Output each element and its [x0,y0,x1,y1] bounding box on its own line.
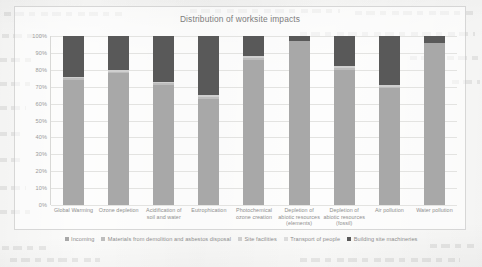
chart-legend: IncomingMaterials from demolition and as… [0,236,482,242]
bar-slot [186,36,231,205]
bar-segment[interactable] [379,87,400,89]
bar-segment[interactable] [289,36,310,41]
bar-segment[interactable] [153,85,174,205]
bar-segment[interactable] [63,80,84,205]
bar-segment[interactable] [334,70,355,205]
legend-swatch-icon [101,237,105,241]
x-axis-category-label: Photochemical ozone creation [231,207,276,229]
bar-segment[interactable] [108,70,129,72]
bar-segment[interactable] [334,66,355,68]
legend-item[interactable]: Building site machineries [347,236,417,242]
bar-slot [231,36,276,205]
bar-slot [51,36,96,205]
bar-segment[interactable] [108,73,129,205]
bar-segment[interactable] [198,97,219,99]
legend-swatch-icon [65,237,69,241]
bar-segment[interactable] [243,36,264,56]
legend-swatch-icon [238,237,242,241]
y-axis-tick-label: 70% [36,84,48,90]
x-axis-labels: Global WarmingOzone depletionAcidificati… [51,207,457,229]
legend-item[interactable]: Transport of people [284,236,340,242]
bar-slot [141,36,186,205]
bar-slot [277,36,322,205]
y-axis-tick-label: 90% [36,50,48,56]
stacked-bar[interactable] [289,36,310,205]
y-axis-tick-label: 80% [36,67,48,73]
stacked-bar[interactable] [243,36,264,205]
stacked-bar[interactable] [63,36,84,205]
x-axis-category-label: Global Warming [51,207,96,229]
bar-segment[interactable] [153,36,174,82]
bar-segment[interactable] [153,82,174,84]
bar-segment[interactable] [243,58,264,60]
y-axis-tick-label: 50% [36,118,48,124]
gridline [51,205,457,206]
stacked-bar[interactable] [334,36,355,205]
y-axis-tick-label: 100% [32,33,47,39]
legend-swatch-icon [284,237,288,241]
x-axis-category-label: Acidification of soil and water [141,207,186,229]
bar-slot [412,36,457,205]
x-axis-category-label: Ozone depletion [96,207,141,229]
bar-segment[interactable] [108,72,129,74]
y-axis-tick-label: 10% [36,185,48,191]
bar-segment[interactable] [108,36,129,70]
bar-segment[interactable] [243,56,264,58]
bar-segment[interactable] [63,36,84,77]
legend-label: Incoming [71,236,94,242]
bars-layer [51,36,457,205]
bar-segment[interactable] [379,85,400,87]
bar-segment[interactable] [198,99,219,205]
y-axis-tick-label: 60% [36,101,48,107]
bar-segment[interactable] [379,88,400,205]
x-axis-category-label: Water pollution [412,207,457,229]
stacked-bar[interactable] [198,36,219,205]
x-axis-category-label: Depletion of abiotic resources (fossil) [322,207,367,229]
bar-slot [367,36,412,205]
chart-container: Distribution of worksite impacts 100%90%… [14,6,466,230]
y-axis-tick-label: 30% [36,151,48,157]
y-axis-tick-label: 20% [36,168,48,174]
legend-item[interactable]: Incoming [65,236,95,242]
bar-segment[interactable] [379,36,400,85]
legend-label: Transport of people [290,236,340,242]
legend-label: Building site machineries [354,236,418,242]
x-axis-category-label: Air pollution [367,207,412,229]
legend-item[interactable]: Site facilities [238,236,277,242]
bar-segment[interactable] [198,95,219,97]
legend-label: Materials from demolition and asbestos d… [108,236,231,242]
bar-segment[interactable] [424,43,445,205]
plot-area: 100%90%80%70%60%50%40%30%20%10%0% [51,36,457,205]
legend-item[interactable]: Materials from demolition and asbestos d… [101,236,231,242]
x-axis-category-label: Eutrophication [186,207,231,229]
bar-segment[interactable] [424,36,445,43]
bar-segment[interactable] [289,41,310,205]
y-axis-tick-label: 0% [39,202,47,208]
bar-slot [322,36,367,205]
y-axis-tick-label: 40% [36,134,48,140]
stacked-bar[interactable] [379,36,400,205]
bar-segment[interactable] [63,77,84,79]
chart-page: Distribution of worksite impacts 100%90%… [0,0,482,267]
stacked-bar[interactable] [153,36,174,205]
legend-swatch-icon [347,237,351,241]
legend-label: Site facilities [245,236,277,242]
bar-slot [96,36,141,205]
stacked-bar[interactable] [424,36,445,205]
bar-segment[interactable] [153,83,174,85]
stacked-bar[interactable] [108,36,129,205]
bar-segment[interactable] [198,36,219,95]
bar-segment[interactable] [334,36,355,66]
bar-segment[interactable] [243,60,264,205]
bar-segment[interactable] [63,78,84,80]
x-axis-category-label: Depletion of abiotic resources (elements… [277,207,322,229]
chart-title: Distribution of worksite impacts [15,14,465,24]
bar-segment[interactable] [334,68,355,70]
